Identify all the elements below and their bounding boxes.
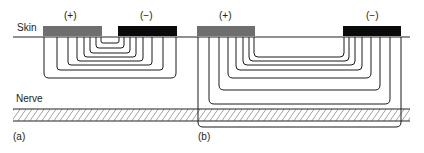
panel-a-field-lines xyxy=(44,37,176,78)
cathode-electrode-a xyxy=(118,26,177,36)
electrode-field-diagram xyxy=(0,0,424,153)
anode-electrode-b xyxy=(197,26,255,36)
cathode-electrode-b xyxy=(343,26,401,36)
anode-electrode-a xyxy=(43,26,102,36)
nerve-band xyxy=(13,109,410,121)
